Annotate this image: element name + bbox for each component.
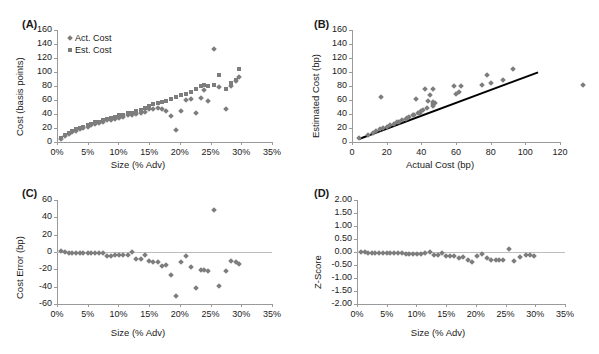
y-tick-label: 100	[306, 66, 347, 76]
y-tick-label: 80	[11, 80, 52, 90]
data-point	[193, 285, 199, 291]
x-tick-label: 40	[403, 147, 439, 157]
x-tick	[506, 304, 507, 307]
y-tick	[349, 128, 352, 129]
data-point	[138, 256, 144, 262]
data-point	[469, 259, 475, 265]
y-tick	[54, 252, 57, 253]
y-tick	[54, 58, 57, 59]
y-tick	[354, 226, 357, 227]
x-tick-label: 120	[542, 147, 578, 157]
x-tick	[88, 304, 89, 307]
data-point	[510, 66, 516, 72]
y-tick	[354, 265, 357, 266]
data-point	[168, 113, 174, 119]
y-tick-label: 120	[306, 52, 347, 62]
data-point	[174, 95, 178, 99]
x-tick	[272, 304, 273, 307]
panel-d: (D) Z-Score Size (% Adv) -2.00-1.50-1.00…	[300, 177, 599, 354]
x-tick	[211, 304, 212, 307]
data-point	[451, 83, 457, 89]
y-tick	[354, 278, 357, 279]
panel-d-x-axis	[357, 304, 565, 305]
x-tick	[57, 304, 58, 307]
panel-d-plot-area: -2.00-1.50-1.00-0.500.000.501.001.502.00…	[357, 200, 565, 304]
x-tick	[352, 142, 353, 145]
data-point	[422, 86, 428, 92]
x-tick-label: 60	[438, 147, 474, 157]
data-point	[356, 135, 362, 141]
y-tick-label: 0.00	[311, 246, 352, 256]
data-point	[234, 78, 238, 82]
x-tick-label: 35%	[254, 309, 290, 319]
legend-label-act-cost: Act. Cost	[75, 33, 112, 43]
data-point	[379, 94, 385, 100]
data-point	[217, 73, 221, 77]
y-tick-label: -40	[11, 281, 52, 291]
data-point	[237, 261, 243, 267]
data-point	[511, 258, 517, 264]
data-point	[205, 268, 211, 274]
y-tick-label: 60	[11, 194, 52, 204]
data-point	[198, 95, 204, 101]
data-point	[173, 293, 179, 299]
y-tick	[54, 217, 57, 218]
x-tick	[149, 142, 150, 145]
y-tick	[354, 291, 357, 292]
data-point	[173, 127, 179, 133]
y-tick-label: 140	[11, 38, 52, 48]
data-point	[178, 259, 184, 265]
y-tick	[54, 114, 57, 115]
y-tick-label: 40	[11, 211, 52, 221]
y-tick	[54, 128, 57, 129]
x-tick-label: 35%	[254, 147, 290, 157]
x-tick	[57, 142, 58, 145]
x-tick	[535, 304, 536, 307]
data-point	[211, 207, 217, 213]
x-tick	[565, 304, 566, 307]
data-point	[212, 83, 216, 87]
x-tick	[241, 304, 242, 307]
y-tick	[349, 44, 352, 45]
data-point	[169, 97, 173, 101]
panel-a-x-axis-title: Size (% Adv)	[48, 159, 228, 170]
y-tick-label: 20	[11, 122, 52, 132]
y-tick-label: 60	[306, 94, 347, 104]
x-tick	[456, 142, 457, 145]
panel-b-x-axis-title: Actual Cost (bp)	[345, 159, 535, 170]
data-point	[500, 257, 506, 263]
y-tick-label: 0.50	[311, 233, 352, 243]
data-point	[183, 253, 189, 259]
legend-item-act-cost: Act. Cost	[68, 32, 112, 44]
y-tick-label: 0	[306, 136, 347, 146]
data-point	[431, 86, 437, 92]
square-marker-icon	[68, 48, 72, 52]
y-tick	[54, 86, 57, 87]
data-point	[163, 108, 169, 114]
data-point	[188, 264, 194, 270]
figure-four-panel-scatter: (A) Cost (basis points) Size (% Adv) 020…	[0, 0, 599, 354]
data-point	[163, 262, 169, 268]
panel-c-plot-area: -60-40-2002040600%5%10%15%20%25%30%35%	[57, 200, 272, 304]
y-tick-label: 40	[11, 108, 52, 118]
data-point	[189, 90, 193, 94]
diamond-marker-icon	[67, 35, 73, 41]
y-tick	[349, 72, 352, 73]
x-tick	[357, 304, 358, 307]
x-tick	[525, 142, 526, 145]
y-tick	[349, 58, 352, 59]
y-tick	[354, 239, 357, 240]
data-point	[223, 106, 229, 112]
data-point	[457, 89, 463, 95]
x-tick	[491, 142, 492, 145]
y-tick-label: 1.50	[311, 207, 352, 217]
y-tick	[54, 269, 57, 270]
y-tick	[354, 200, 357, 201]
x-tick-label: 0	[334, 147, 370, 157]
data-point	[216, 85, 222, 91]
x-tick-label: 80	[473, 147, 509, 157]
data-point	[413, 96, 419, 102]
panel-d-x-axis-title: Size (% Adv)	[348, 327, 528, 338]
data-point	[237, 67, 241, 71]
x-tick	[118, 142, 119, 145]
